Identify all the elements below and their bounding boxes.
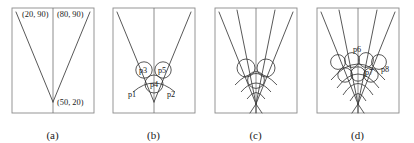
panel-b-point-label-p4: p4 [150, 80, 158, 89]
panel-a-label-top-right: (80, 90) [57, 10, 84, 19]
panel-c-drawing [205, 0, 306, 143]
panel-b-drawing: p1 p2 p3 p4 p5 [103, 0, 204, 143]
panel-d-point-label-p7: p7 [365, 68, 373, 77]
panel-a: (20, 90) (80, 90) (50, 20) (a) [2, 0, 103, 143]
panel-b-point-label-p1: p1 [128, 90, 136, 99]
panel-b-point-label-p2: p2 [167, 90, 175, 99]
panel-a-drawing: (20, 90) (80, 90) (50, 20) [2, 0, 103, 143]
panel-d-caption: (d) [307, 129, 408, 141]
panel-b-point-label-p3: p3 [139, 66, 147, 75]
panel-b-point-label-p5: p5 [158, 66, 166, 75]
panel-d: p6 p7 p8 (d) [307, 0, 408, 143]
panel-c: (c) [205, 0, 306, 143]
panel-b-caption: (b) [103, 129, 204, 141]
panel-a-label-apex: (50, 20) [57, 98, 84, 107]
panel-d-point-label-p8: p8 [381, 65, 389, 74]
panel-d-point-label-p6: p6 [353, 45, 361, 54]
panel-a-caption: (a) [2, 129, 103, 141]
panel-b: p1 p2 p3 p4 p5 (b) [103, 0, 204, 143]
figure-root: (20, 90) (80, 90) (50, 20) (a) p1 p2 p3 … [0, 0, 414, 143]
panel-c-caption: (c) [205, 129, 306, 141]
panel-a-label-top-left: (20, 90) [22, 10, 49, 19]
panel-d-drawing: p6 p7 p8 [307, 0, 408, 143]
